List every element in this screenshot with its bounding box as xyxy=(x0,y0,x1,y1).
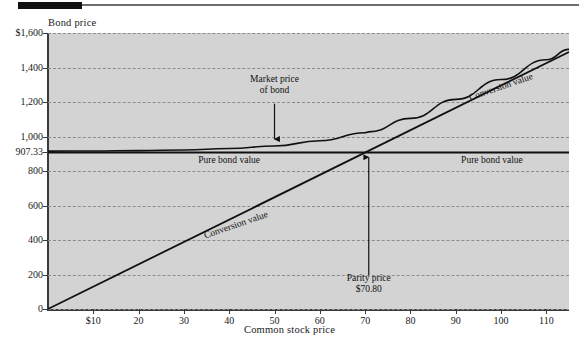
x-axis-title: Common stock price xyxy=(0,324,579,335)
y-tick xyxy=(43,309,48,310)
annotation-parity-line2: $70.80 xyxy=(314,284,424,295)
x-tick xyxy=(501,309,502,314)
annotation-pure-bond-value-left: Pure bond value xyxy=(179,155,279,166)
y-tick-label: 1,200 xyxy=(0,96,43,107)
y-tick xyxy=(43,68,48,69)
gridline xyxy=(48,102,569,103)
y-tick xyxy=(43,102,48,103)
annotation-parity-price: Parity price $70.80 xyxy=(314,273,424,295)
gridline xyxy=(48,206,569,207)
y-tick-label: 400 xyxy=(0,234,43,245)
y-tick-label: 1,400 xyxy=(0,62,43,73)
annotation-market-price-of-bond: Market price of bond xyxy=(215,74,335,96)
y-tick-label: 200 xyxy=(0,269,43,280)
annotation-pure-bond-value-right: Pure bond value xyxy=(442,155,542,166)
y-tick xyxy=(43,152,48,153)
y-tick xyxy=(43,171,48,172)
y-tick xyxy=(43,206,48,207)
x-tick xyxy=(365,309,366,314)
y-tick xyxy=(43,137,48,138)
y-tick-label: 800 xyxy=(0,165,43,176)
x-tick xyxy=(275,309,276,314)
header-gray-rule xyxy=(82,4,579,6)
y-tick xyxy=(43,33,48,34)
gridline xyxy=(48,33,569,34)
y-axis-title: Bond price xyxy=(48,17,96,28)
x-tick xyxy=(184,309,185,314)
y-tick-label: $1,600 xyxy=(0,27,43,38)
x-tick xyxy=(320,309,321,314)
x-tick xyxy=(93,309,94,314)
gridline xyxy=(48,137,569,138)
gridline xyxy=(48,309,569,310)
gridline xyxy=(48,171,569,172)
y-tick-label: 0 xyxy=(0,303,43,314)
y-tick-label: 1,000 xyxy=(0,131,43,142)
annotation-market-price-line1: Market price xyxy=(215,74,335,85)
annotation-market-price-line2: of bond xyxy=(215,85,335,96)
x-tick xyxy=(456,309,457,314)
y-tick xyxy=(43,240,48,241)
y-tick xyxy=(43,275,48,276)
x-tick xyxy=(229,309,230,314)
x-tick xyxy=(139,309,140,314)
y-tick-label: 907.33 xyxy=(0,146,43,157)
header-black-bar xyxy=(18,2,82,9)
gridline xyxy=(48,240,569,241)
gridline xyxy=(48,68,569,69)
x-tick xyxy=(410,309,411,314)
figure-container: Bond price 0200400600800907.331,0001,200… xyxy=(0,0,579,341)
gridline xyxy=(48,275,569,276)
y-tick-label: 600 xyxy=(0,200,43,211)
x-tick xyxy=(546,309,547,314)
annotation-parity-line1: Parity price xyxy=(314,273,424,284)
